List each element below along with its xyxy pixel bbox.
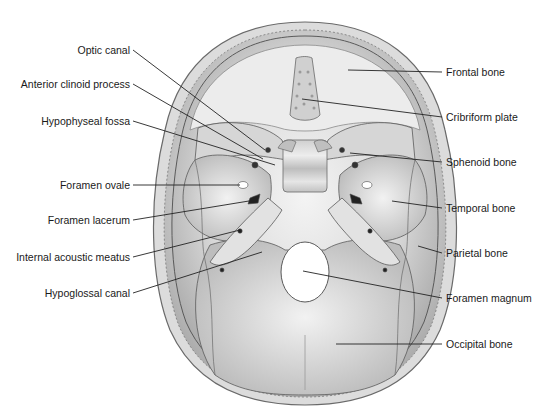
label-foramen-lacerum: Foramen lacerum [48, 214, 130, 226]
label-frontal-bone: Frontal bone [446, 66, 505, 78]
label-optic-canal: Optic canal [77, 44, 130, 56]
label-hypoglossal-canal: Hypoglossal canal [45, 287, 130, 299]
label-occipital-bone: Occipital bone [446, 338, 513, 350]
label-foramen-ovale: Foramen ovale [60, 179, 130, 191]
optic-canal-left [266, 148, 271, 153]
label-temporal-bone: Temporal bone [446, 202, 515, 214]
internal-acoustic-meatus-left [238, 229, 242, 233]
hypoglossal-canal-left [220, 268, 224, 272]
label-cribriform-plate: Cribriform plate [446, 111, 518, 123]
internal-acoustic-meatus-right [368, 229, 372, 233]
optic-canal-right [340, 148, 345, 153]
label-anterior-clinoid-process: Anterior clinoid process [21, 78, 130, 90]
label-parietal-bone: Parietal bone [446, 247, 508, 259]
hypoglossal-canal-right [383, 268, 387, 272]
label-internal-acoustic-meatus: Internal acoustic meatus [16, 251, 130, 263]
label-foramen-magnum: Foramen magnum [446, 292, 532, 304]
foramen-magnum [281, 242, 329, 302]
label-hypophyseal-fossa: Hypophyseal fossa [41, 115, 130, 127]
label-sphenoid-bone: Sphenoid bone [446, 156, 517, 168]
foramen-ovale-right [362, 182, 372, 189]
sella-turcica [278, 140, 332, 192]
